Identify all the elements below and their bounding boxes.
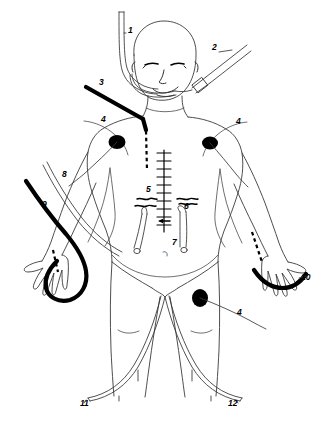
ecg-electrodes [69, 135, 266, 329]
drain-pointer-arrowhead [158, 219, 163, 223]
chest-drain-left-tip [134, 248, 140, 253]
left-leg-outer [110, 262, 114, 396]
patient-diagram-svg: 1 2 3 4 4 4 5 6 7 8 9 10 11 12 [0, 0, 321, 424]
vent-tube-edge-b [124, 12, 158, 89]
label-7: 7 [172, 237, 178, 247]
label-4-right-thigh: 4 [236, 307, 242, 317]
chest-wound-left-mark-a [137, 198, 157, 199]
label-1: 1 [128, 25, 133, 35]
chest-drain-right-tip [181, 247, 187, 252]
head-outline [134, 21, 196, 100]
mediastinal-drains [134, 206, 187, 254]
label-3: 3 [99, 77, 104, 87]
chest-drain-left-edge-a [134, 214, 142, 248]
label-8: 8 [62, 169, 67, 179]
right-forearm-arterial-line [252, 232, 262, 262]
label-11: 11 [80, 398, 89, 408]
right-hand-outline [262, 256, 306, 296]
cvp-line-internal-dashed [146, 131, 147, 170]
ett-tip-edge-a [192, 77, 206, 88]
left-eye-closed [145, 63, 158, 65]
label-6: 6 [184, 201, 189, 211]
medical-illustration-figure: 1 2 3 4 4 4 5 6 7 8 9 10 11 12 [0, 0, 321, 424]
chest-wound-right-mark-a [177, 198, 198, 199]
ett-tip-edge-b [196, 83, 210, 93]
chest-wound-left-mark-b [135, 205, 156, 206]
chest-drain-right-edge-b [186, 212, 187, 247]
chest-drain-left-top-curve [142, 207, 147, 214]
ecg-lead-wire-left-chest [69, 142, 117, 186]
label-4-left-chest: 4 [100, 114, 106, 124]
label-12: 12 [228, 398, 238, 408]
label-2: 2 [211, 42, 217, 52]
catheter-11-edge-a [88, 296, 161, 398]
ecg-lead-wire-right-chest [210, 143, 248, 187]
left-arm-inner [62, 183, 96, 255]
endotracheal-tube [130, 45, 251, 97]
right-costal-margin [215, 169, 225, 247]
right-arm-inner [234, 184, 268, 256]
ventilator-circuit-tube [119, 12, 158, 94]
catheter-12-edge-b [165, 297, 240, 401]
ett-oral-segment [175, 90, 192, 92]
label-10: 10 [301, 272, 311, 282]
left-eye-lash [143, 66, 145, 68]
neck-central-venous-line [86, 87, 147, 170]
leader-2 [219, 50, 232, 52]
neck-outline [143, 96, 148, 116]
right-eye-lash [184, 66, 186, 68]
catheter-12-tip [240, 398, 242, 401]
left-costal-margin [105, 168, 115, 246]
right-leg-inner [170, 297, 185, 397]
ett-edge-b [210, 51, 251, 83]
left-leg-inner [145, 297, 160, 397]
mouth-outline [153, 87, 178, 93]
perineum [152, 288, 178, 297]
right-arm-outer [242, 153, 288, 262]
label-5: 5 [146, 184, 151, 194]
right-eye-closed [171, 63, 184, 65]
sternotomy-wound [157, 150, 171, 232]
label-9: 9 [42, 199, 47, 209]
nose-outline [159, 70, 166, 84]
umbilicus [163, 252, 167, 256]
catheter-11-edge-b [90, 297, 165, 401]
label-numbers: 1 2 3 4 4 4 5 6 7 8 9 10 11 12 [42, 25, 311, 408]
label-4-right-chest: 4 [235, 116, 241, 126]
cvp-line-turn [143, 119, 146, 130]
right-knee-crease [191, 330, 212, 333]
ecg-lead-wire-right-thigh [200, 298, 266, 329]
right-leg-outer [216, 262, 220, 396]
left-arm-line-9 [26, 181, 86, 301]
neck-outline-right [182, 96, 188, 117]
neck-base-crease [146, 108, 184, 112]
cvp-line-external [86, 87, 143, 119]
left-knee-crease [118, 330, 139, 333]
